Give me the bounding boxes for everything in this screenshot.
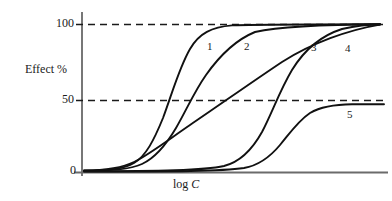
curve-2: [84, 24, 380, 171]
curve-label-5: 5: [347, 109, 353, 120]
chart-plot-area: [0, 0, 392, 201]
y-tick-label-50: 50: [62, 93, 74, 105]
curve-label-3: 3: [311, 42, 317, 53]
curve-label-1: 1: [207, 41, 213, 52]
x-axis-title-prefix: log: [173, 177, 188, 191]
dose-response-chart: 100 50 0 Effect % log C 1 2 3 4 5: [0, 0, 392, 201]
y-axis-title: Effect %: [25, 63, 67, 75]
curve-label-2: 2: [244, 41, 250, 52]
curve-label-4: 4: [345, 43, 351, 54]
y-tick-label-0: 0: [70, 164, 76, 176]
x-axis-title: log C: [173, 178, 199, 190]
x-axis-title-variable: C: [191, 177, 199, 191]
y-tick-label-100: 100: [56, 17, 74, 29]
